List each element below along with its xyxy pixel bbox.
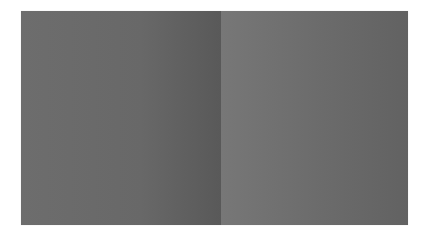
gray-panels-frame bbox=[21, 11, 408, 225]
right-gray-panel bbox=[221, 11, 408, 225]
left-gray-panel bbox=[21, 11, 221, 225]
